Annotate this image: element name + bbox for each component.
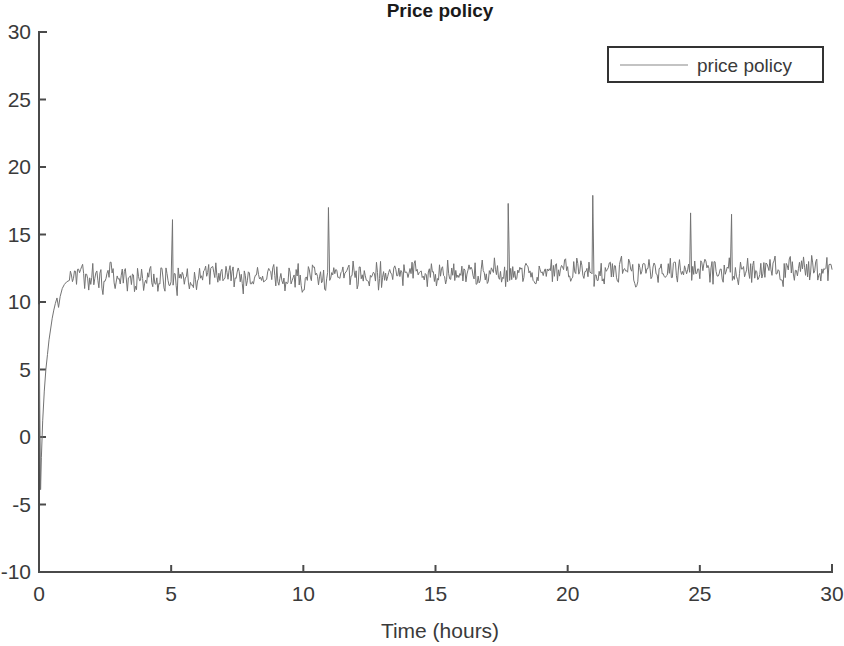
legend-label-price-policy: price policy (697, 55, 793, 76)
x-tick-label: 0 (33, 582, 45, 605)
axes-spines (39, 32, 832, 572)
x-tick-label: 25 (688, 582, 711, 605)
x-axis-label: Time (hours) (381, 619, 499, 642)
series-price-policy (39, 195, 832, 489)
x-tick-label: 20 (556, 582, 579, 605)
legend: price policy (608, 47, 823, 82)
x-tick-label: 5 (165, 582, 177, 605)
x-tick-label: 30 (820, 582, 843, 605)
plot-area (39, 195, 832, 489)
price-policy-chart: Price policy -10-5051015202530 051015202… (0, 0, 844, 646)
y-tick-label: 5 (19, 358, 31, 381)
y-tick-label: 20 (8, 155, 31, 178)
y-tick-label: 0 (19, 425, 31, 448)
chart-title: Price policy (387, 0, 494, 21)
y-tick-label: 30 (8, 20, 31, 43)
y-tick-label: 25 (8, 88, 31, 111)
x-tick-label: 15 (424, 582, 447, 605)
y-tick-label: -10 (1, 560, 31, 583)
y-tick-label: 10 (8, 290, 31, 313)
axis-spine-line (39, 32, 832, 572)
x-tick-label: 10 (292, 582, 315, 605)
y-tick-label: 15 (8, 223, 31, 246)
y-tick-label: -5 (12, 493, 31, 516)
